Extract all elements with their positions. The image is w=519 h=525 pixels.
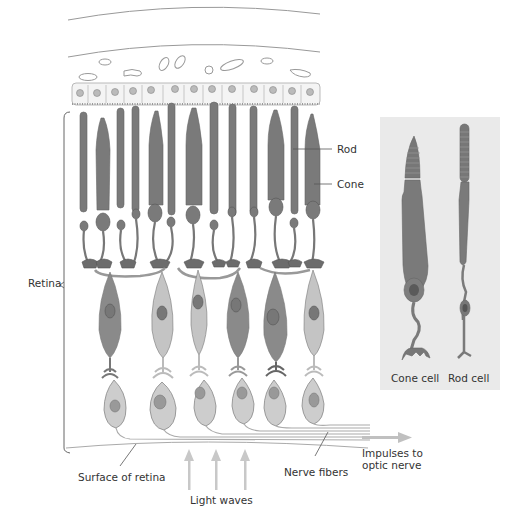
ganglion-cells bbox=[104, 378, 324, 430]
label-rod: Rod bbox=[337, 143, 357, 155]
nerve-fiber-bundle bbox=[116, 424, 370, 440]
synaptic-terminals bbox=[82, 259, 324, 268]
retina-diagram bbox=[0, 0, 519, 525]
choroid-cells bbox=[79, 54, 310, 81]
label-impulses-line2: optic nerve bbox=[362, 459, 421, 471]
label-rod-cell: Rod cell bbox=[448, 372, 489, 384]
choroid-arc bbox=[68, 45, 320, 57]
pigment-epithelium bbox=[72, 83, 320, 105]
label-surface-of-retina: Surface of retina bbox=[78, 471, 165, 483]
nerve-fibers-pointer bbox=[315, 432, 328, 456]
label-nerve-fibers: Nerve fibers bbox=[284, 466, 348, 478]
label-cone: Cone bbox=[337, 178, 364, 190]
outer-layer-arc bbox=[68, 7, 320, 20]
photoreceptor-layer bbox=[80, 102, 320, 216]
label-cone-cell: Cone cell bbox=[391, 372, 439, 384]
light-wave-arrows bbox=[184, 449, 250, 490]
bipolar-cells bbox=[99, 270, 324, 362]
label-retina: Retina bbox=[28, 277, 61, 289]
label-impulses-line1: Impulses to bbox=[362, 447, 423, 459]
horizontal-cell-fibers bbox=[95, 268, 310, 278]
retina-surface-line bbox=[66, 442, 368, 448]
surface-pointer bbox=[120, 444, 136, 466]
label-light-waves: Light waves bbox=[190, 494, 253, 506]
bipolar-terminals bbox=[102, 355, 323, 378]
inset-panel bbox=[380, 117, 500, 390]
retina-bracket bbox=[64, 112, 70, 453]
